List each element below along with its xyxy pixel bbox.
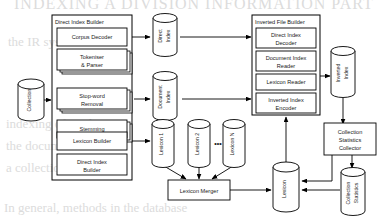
stage-stop-word-removal[interactable]: Stop-word Removal <box>57 88 132 113</box>
collection-label: Collection <box>26 88 32 111</box>
direct-index-decoder-label-1: Direct Index <box>271 32 301 38</box>
edge-lexicon1-to-merger <box>164 166 186 179</box>
group-inverted-file-builder[interactable]: Inverted File Builder Direct Index Decod… <box>252 15 320 115</box>
inverted-index-encoder-label-1: Inverted Index <box>268 97 304 103</box>
lexicon-reader-label: Lexicon Reader <box>266 79 305 85</box>
datastore-collection[interactable]: Collection <box>18 79 44 121</box>
lexicon-merger-label: Lexicon Merger <box>180 188 219 194</box>
edge-lexiconn-to-merger <box>212 166 233 179</box>
collection-statistics-label-2: Statistics <box>353 182 359 203</box>
inverted-index-label-1: Inverted <box>335 64 341 83</box>
stage-lexicon-builder[interactable]: Lexicon Builder <box>57 132 127 150</box>
csc-label-3: Collector <box>339 145 361 151</box>
corpus-decoder-label: Corpus Decoder <box>72 34 113 40</box>
direct-index-builder-stage-label-2: Builder <box>83 167 101 173</box>
inverted-file-builder-title: Inverted File Builder <box>255 19 305 25</box>
csc-label-2: Statistics <box>339 137 362 143</box>
direct-index-label-2: Index <box>165 29 171 42</box>
direct-index-builder-title: Direct Index Builder <box>55 19 104 25</box>
stemming-label: Stemming <box>79 126 104 132</box>
datastore-document-index[interactable]: Document Index <box>153 72 177 121</box>
stage-direct-index-decoder[interactable]: Direct Index Decoder <box>256 28 316 48</box>
document-index-reader-label-1: Document Index <box>266 55 307 61</box>
stage-lexicon-reader[interactable]: Lexicon Reader <box>256 74 316 90</box>
process-lexicon-merger[interactable]: Lexicon Merger <box>168 180 230 200</box>
document-index-label-1: Document <box>157 85 163 109</box>
document-index-label-2: Index <box>165 90 171 103</box>
lexicon-ellipsis: ••• <box>214 140 222 147</box>
stage-document-index-reader[interactable]: Document Index Reader <box>256 51 316 71</box>
diagram-canvas: INDEXING A DIVISION INFORMATION PART the… <box>0 0 390 221</box>
lexicon-label: Lexicon <box>281 180 287 198</box>
direct-index-builder-stage-label-1: Direct Index <box>77 159 107 165</box>
lexicon-1-label: Lexicon 1 <box>158 133 164 155</box>
stage-inverted-index-encoder[interactable]: Inverted Index Encoder <box>256 93 316 113</box>
collection-statistics-label-1: Collection <box>345 181 351 204</box>
lexicon-builder-label: Lexicon Builder <box>73 138 111 144</box>
stage-direct-index-builder[interactable]: Direct Index Builder <box>57 154 127 175</box>
stage-corpus-decoder[interactable]: Corpus Decoder <box>57 28 127 46</box>
lexicon-2-label: Lexicon 2 <box>194 133 200 155</box>
inverted-index-encoder-label-2: Encoder <box>276 105 297 111</box>
direct-index-label-1: Direct <box>157 29 163 43</box>
stop-word-removal-label-1: Stop-word <box>79 93 105 99</box>
datastore-direct-index[interactable]: Direct Index <box>153 14 177 57</box>
csc-label-1: Collection <box>338 129 363 135</box>
document-index-reader-label-2: Reader <box>277 63 295 69</box>
direct-index-decoder-label-2: Decoder <box>275 40 296 46</box>
datastore-lexicon-1[interactable]: Lexicon 1 <box>152 120 174 168</box>
inverted-index-label-2: Index <box>343 66 349 79</box>
datastore-lexicon-n[interactable]: Lexicon N <box>223 120 245 168</box>
datastore-inverted-index[interactable]: Inverted Index <box>331 47 355 98</box>
stage-tokeniser-parser[interactable]: Tokeniser & Parser <box>57 49 132 74</box>
lexicon-n-label: Lexicon N <box>229 132 235 155</box>
datastore-collection-statistics[interactable]: Collection Statistics <box>341 168 365 216</box>
datastore-lexicon[interactable]: Lexicon <box>273 162 299 212</box>
tokeniser-parser-label-2: & Parser <box>81 62 103 68</box>
tokeniser-parser-label-1: Tokeniser <box>80 54 104 60</box>
datastore-lexicon-2[interactable]: Lexicon 2 <box>188 120 210 168</box>
group-direct-index-builder[interactable]: Direct Index Builder Corpus Decoder Toke… <box>52 15 132 180</box>
edge-csc-to-lexicon <box>302 155 332 181</box>
stop-word-removal-label-2: Removal <box>81 101 103 107</box>
process-collection-statistics-collector[interactable]: Collection Statistics Collector <box>324 123 376 155</box>
